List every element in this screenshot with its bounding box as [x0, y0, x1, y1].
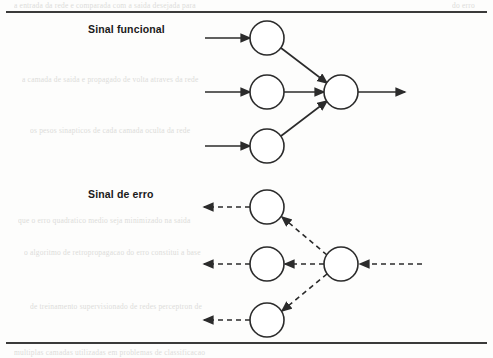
edge-f-in-1-to-f-hub	[281, 48, 327, 83]
edge-f-in-3-to-f-hub	[281, 101, 327, 136]
network-diagram-svg	[0, 0, 493, 358]
node-e-out-3	[250, 303, 284, 337]
node-e-out-1	[250, 190, 284, 224]
edge-e-hub-to-e-out-3	[282, 274, 327, 311]
error-signal-panel	[204, 190, 422, 337]
node-f-in-1	[250, 21, 284, 55]
node-f-hub	[324, 75, 358, 109]
edge-e-hub-to-e-out-1	[282, 217, 327, 255]
figure-container: a entrada da rede e comparada com a said…	[0, 0, 493, 358]
node-e-out-2	[250, 247, 284, 281]
forward-signal-panel	[205, 21, 405, 163]
node-f-in-3	[250, 129, 284, 163]
node-f-in-2	[250, 75, 284, 109]
node-e-hub	[324, 247, 358, 281]
